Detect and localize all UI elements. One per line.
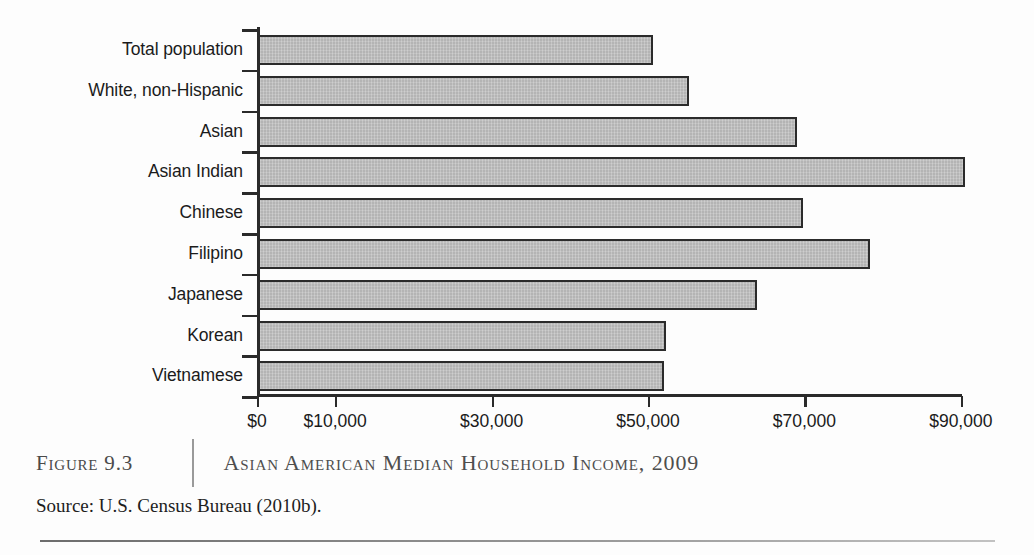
figure-title: Asian American Median Household Income, …: [224, 450, 700, 476]
x-axis-tick-label: $0: [247, 411, 266, 432]
category-label: White, non-Hispanic: [0, 80, 243, 101]
category-label: Japanese: [0, 284, 243, 305]
y-axis-tick: [242, 29, 257, 32]
figure-number: Figure 9.3: [36, 451, 186, 476]
bar: [258, 239, 870, 269]
x-axis-tick: [257, 396, 259, 407]
x-axis-tick-label: $70,000: [773, 411, 836, 432]
bar-chart: Total populationWhite, non-HispanicAsian…: [0, 0, 1034, 430]
plot-area: $0$10,000$30,000$50,000$70,000$90,000: [257, 27, 1034, 394]
category-axis-labels: Total populationWhite, non-HispanicAsian…: [0, 27, 243, 394]
y-axis-tick: [242, 396, 257, 399]
x-axis-tick-label: $30,000: [460, 411, 523, 432]
source-note: Source: U.S. Census Bureau (2010b).: [36, 495, 322, 517]
bar: [258, 361, 664, 391]
bar: [258, 157, 965, 187]
x-axis-tick-label: $90,000: [929, 411, 992, 432]
x-axis-tick: [335, 396, 337, 407]
y-axis-tick: [242, 70, 257, 73]
bar: [258, 198, 803, 228]
y-axis-tick: [242, 192, 257, 195]
bar: [258, 35, 653, 65]
x-axis-tick: [492, 396, 494, 407]
figure-caption-row: Figure 9.3 Asian American Median Househo…: [36, 443, 996, 483]
category-label: Chinese: [0, 202, 243, 223]
x-axis-tick: [961, 396, 963, 407]
y-axis-tick: [242, 315, 257, 318]
y-axis-tick: [242, 151, 257, 154]
bottom-rule: [40, 540, 995, 542]
category-label: Filipino: [0, 243, 243, 264]
category-label: Total population: [0, 39, 243, 60]
caption-divider: [192, 439, 194, 487]
x-axis-tick-label: $10,000: [304, 411, 367, 432]
category-label: Korean: [0, 325, 243, 346]
bar: [258, 117, 797, 147]
category-label: Asian: [0, 121, 243, 142]
x-axis-line: [257, 394, 962, 397]
figure-container: Total populationWhite, non-HispanicAsian…: [0, 0, 1034, 555]
x-axis-tick-label: $50,000: [616, 411, 679, 432]
y-axis-tick: [242, 274, 257, 277]
x-axis-tick: [648, 396, 650, 407]
y-axis-tick: [242, 111, 257, 114]
category-label: Asian Indian: [0, 161, 243, 182]
x-axis-tick: [804, 396, 806, 407]
category-label: Vietnamese: [0, 365, 243, 386]
bar: [258, 321, 666, 351]
bar: [258, 280, 757, 310]
bar: [258, 76, 689, 106]
y-axis-tick: [242, 355, 257, 358]
y-axis-tick: [242, 233, 257, 236]
